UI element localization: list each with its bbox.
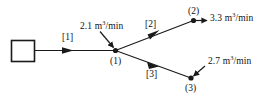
flow-arrow-inflow-node1	[100, 32, 114, 48]
flow-27-value: 2.7	[208, 56, 220, 66]
node-2-label: (2)	[188, 7, 199, 17]
node-1-label: (1)	[110, 57, 121, 67]
node-3-dot	[188, 75, 193, 80]
flow-rate-label-inflow-node3: 2.7 m3/min	[208, 57, 251, 67]
pipe-1-arrowhead	[62, 47, 74, 53]
flow-21-unit-rest: /min	[105, 21, 123, 31]
flow-33-unit-rest: /min	[235, 13, 253, 23]
flow-27-unit-rest: /min	[233, 56, 251, 66]
node-2-dot	[191, 18, 196, 23]
source-reservoir-box	[12, 41, 35, 62]
flow-33-value: 3.3	[210, 13, 222, 23]
flow-rate-label-outflow-node2: 3.3 m3/min	[210, 14, 253, 24]
pipe-2-label: [2]	[145, 20, 156, 30]
pipe-network-diagram: [1] [2] [3] (1) (2) (3) 2.1 m3/min 3.3 m…	[0, 0, 264, 104]
flow-21-value: 2.1	[80, 21, 92, 31]
flow-arrow-inflow-node3	[194, 66, 206, 76]
node-1-dot	[113, 48, 118, 53]
node-3-label: (3)	[185, 84, 196, 94]
flow-rate-label-inflow-node1: 2.1 m3/min	[80, 22, 123, 32]
pipe-1-label: [1]	[62, 33, 73, 43]
pipe-3-label: [3]	[146, 70, 157, 80]
